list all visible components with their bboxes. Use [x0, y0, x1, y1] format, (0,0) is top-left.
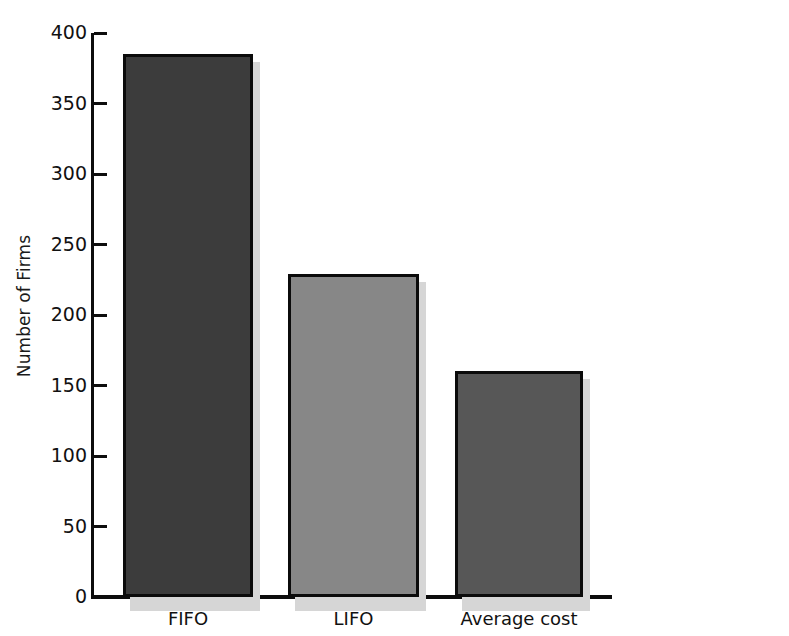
- y-axis-tick: [94, 243, 107, 246]
- y-axis-tick-label: 50: [0, 517, 87, 536]
- y-axis-tick-label: 350: [0, 94, 87, 113]
- y-axis-tick-label: 300: [0, 164, 87, 183]
- y-axis-tick-label: 250: [0, 235, 87, 254]
- y-axis-tick: [94, 596, 107, 599]
- y-axis-tick: [94, 384, 107, 387]
- y-axis-tick: [94, 173, 107, 176]
- y-axis-tick-label: 100: [0, 446, 87, 465]
- bar-fifo[interactable]: [123, 54, 253, 597]
- y-axis-tick-label: 200: [0, 305, 87, 324]
- y-axis-tick-label: 150: [0, 376, 87, 395]
- y-axis-tick: [94, 32, 107, 35]
- y-axis-tick: [94, 102, 107, 105]
- bar-lifo[interactable]: [288, 274, 419, 597]
- y-axis-tick: [94, 455, 107, 458]
- bar-chart: Number of Firms 050100150200250300350400…: [0, 0, 789, 636]
- y-axis-tick: [94, 314, 107, 317]
- y-axis-tick-label: 0: [0, 587, 87, 606]
- bar-average-cost[interactable]: [455, 371, 583, 597]
- y-axis-tick: [94, 525, 107, 528]
- x-axis-label-average-cost: Average cost: [415, 609, 623, 629]
- y-axis-tick-label: 400: [0, 23, 87, 42]
